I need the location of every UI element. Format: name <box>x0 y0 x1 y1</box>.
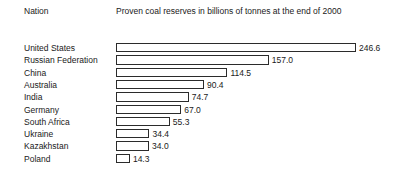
bar-germany <box>116 105 181 114</box>
chart-row: Russian Federation157.0 <box>0 54 406 66</box>
value-label-russian-federation: 157.0 <box>272 54 293 66</box>
category-label-united-states: United States <box>24 42 75 54</box>
bar-kazakhstan <box>116 141 149 150</box>
value-label-ukraine: 34.4 <box>152 128 169 140</box>
value-label-poland: 14.3 <box>133 153 150 165</box>
value-label-china: 114.5 <box>230 67 251 79</box>
bar-united-states <box>116 43 356 52</box>
column-header-measure: Proven coal reserves in billions of tonn… <box>116 6 392 17</box>
chart-row: South Africa55.3 <box>0 116 406 128</box>
chart-row: United States246.6 <box>0 42 406 54</box>
category-label-india: India <box>24 91 42 103</box>
bar-ukraine <box>116 129 149 138</box>
category-label-australia: Australia <box>24 79 57 91</box>
value-label-india: 74.7 <box>192 91 209 103</box>
chart-row: Poland14.3 <box>0 153 406 165</box>
chart-row: India74.7 <box>0 91 406 103</box>
bar-australia <box>116 80 204 89</box>
value-label-australia: 90.4 <box>207 79 224 91</box>
chart-row: Germany67.0 <box>0 104 406 116</box>
value-label-south-africa: 55.3 <box>173 116 190 128</box>
chart-row: China114.5 <box>0 67 406 79</box>
chart-plot-area: United States246.6Russian Federation157.… <box>0 38 406 171</box>
chart-row: Kazakhstan34.0 <box>0 140 406 152</box>
chart-row: Ukraine34.4 <box>0 128 406 140</box>
value-label-united-states: 246.6 <box>359 42 380 54</box>
bar-poland <box>116 154 130 163</box>
category-label-russian-federation: Russian Federation <box>24 54 98 66</box>
bar-india <box>116 92 189 101</box>
category-label-germany: Germany <box>24 104 59 116</box>
chart-row: Australia90.4 <box>0 79 406 91</box>
coal-reserves-bar-chart: Nation Proven coal reserves in billions … <box>0 0 406 171</box>
bar-south-africa <box>116 117 170 126</box>
category-label-south-africa: South Africa <box>24 116 70 128</box>
column-header-nation: Nation <box>24 6 49 16</box>
category-label-kazakhstan: Kazakhstan <box>24 140 68 152</box>
chart-header: Nation Proven coal reserves in billions … <box>0 0 406 38</box>
category-label-poland: Poland <box>24 153 50 165</box>
bar-russian-federation <box>116 55 269 64</box>
value-label-germany: 67.0 <box>184 104 201 116</box>
bar-china <box>116 68 227 77</box>
value-label-kazakhstan: 34.0 <box>152 140 169 152</box>
category-label-ukraine: Ukraine <box>24 128 53 140</box>
category-label-china: China <box>24 67 46 79</box>
